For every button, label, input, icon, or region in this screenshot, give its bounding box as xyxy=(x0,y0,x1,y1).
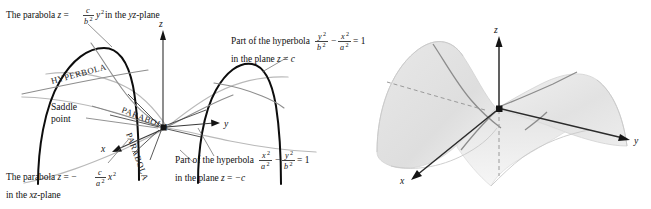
caption-br-t2-den-sup: 2 xyxy=(290,161,293,167)
caption-tr-t2-den-sup: 2 xyxy=(346,42,349,48)
caption-tr-t1-num: y xyxy=(317,32,322,41)
surface-x-axis-label: x xyxy=(399,175,405,186)
caption-tl-plane: yz xyxy=(127,10,136,20)
caption-top-right: Part of the hyperbola y 2 b 2 − x 2 a 2 … xyxy=(231,31,365,65)
caption-tl-frac-num: c xyxy=(86,6,90,15)
caption-br-minus: − xyxy=(275,155,280,165)
caption-tl-plane-tail: -plane xyxy=(136,10,159,20)
caption-tl-suffix: in the xyxy=(105,10,128,20)
surface-z-axis-label: z xyxy=(493,24,498,35)
caption-tr-line2a: in the plane xyxy=(231,54,277,64)
caption-bottom-right: Part of the hyperbola x 2 a 2 − y 2 b 2 … xyxy=(175,150,310,184)
caption-tl-y-sup: 2 xyxy=(101,9,104,15)
surface-z-arrowhead xyxy=(496,36,503,47)
surface-origin-marker xyxy=(496,106,503,113)
caption-tl-frac-den-sup: 2 xyxy=(90,16,93,22)
left-labeled-diagram: z y x HYPERBOLA PARABOLA PARABOLA Saddle… xyxy=(0,0,365,209)
caption-tr-t1-den: b xyxy=(317,43,321,52)
caption-bottom-left: The parabola z = − c a 2 x 2 in the xz-p… xyxy=(6,168,116,200)
caption-br-line2a: in the plane xyxy=(175,173,221,183)
caption-tr-equals: = 1 xyxy=(353,36,365,46)
caption-tr-t1-num-sup: 2 xyxy=(323,31,326,37)
caption-bl-line2a: in the xyxy=(6,190,29,200)
right-shaded-surface: z y x xyxy=(365,0,651,209)
svg-text:in the plane z = −c: in the plane z = −c xyxy=(175,173,246,183)
y-axis-arrowhead xyxy=(211,120,220,127)
caption-br-t1-den: a xyxy=(261,162,265,171)
caption-br-t1-num: x xyxy=(261,151,266,160)
caption-tr-t1-den-sup: 2 xyxy=(323,42,326,48)
gray-trace-lower-right xyxy=(167,128,316,152)
caption-bl-line2-plane: xz xyxy=(28,190,37,200)
caption-br-t1-den-sup: 2 xyxy=(267,161,270,167)
caption-tr-t2-den: a xyxy=(340,43,344,52)
surface-y-axis-label: y xyxy=(633,135,639,146)
caption-bl-frac-den-sup: 2 xyxy=(102,178,105,184)
y-axis-label: y xyxy=(223,118,229,129)
x-axis-label: x xyxy=(100,143,106,154)
caption-bl-equals: = xyxy=(61,172,71,182)
caption-tr-t2-num: x xyxy=(340,32,345,41)
caption-br-prefix: Part of the hyperbola xyxy=(175,155,255,165)
svg-text:in the xz-plane: in the xz-plane xyxy=(6,190,61,200)
saddle-point-label-line1: Saddle xyxy=(51,101,77,112)
caption-br-t1-num-sup: 2 xyxy=(267,150,270,156)
caption-tr-line2b: = xyxy=(281,54,291,64)
caption-bl-minus: − xyxy=(71,172,76,182)
caption-bl-prefix: The parabola xyxy=(6,172,58,182)
caption-tl-prefix: The parabola xyxy=(6,10,58,20)
svg-text:The parabola z =: The parabola z = xyxy=(6,10,69,20)
caption-bl-frac-num: c xyxy=(98,168,102,177)
svg-text:The parabola z = −: The parabola z = − xyxy=(6,172,76,182)
caption-top-left: The parabola z = c b 2 y 2 in the yz-pla… xyxy=(6,6,160,26)
caption-bl-frac-den: a xyxy=(96,179,100,188)
caption-bl-line2b: -plane xyxy=(37,190,60,200)
caption-br-t2-den: b xyxy=(284,162,288,171)
caption-br-line2b: = xyxy=(225,173,235,183)
z-axis-arrowhead xyxy=(160,30,166,40)
caption-br-equals: = 1 xyxy=(297,155,310,165)
saddle-point-label-line2: point xyxy=(51,113,71,124)
caption-br-t2-num: y xyxy=(284,151,289,160)
caption-bl-x-sup: 2 xyxy=(113,171,116,177)
caption-tl-equals: = xyxy=(61,10,69,20)
caption-tr-t2-num-sup: 2 xyxy=(346,31,349,37)
caption-br-line2-c: −c xyxy=(235,173,246,183)
figure-root: z y x HYPERBOLA PARABOLA PARABOLA Saddle… xyxy=(0,0,651,209)
caption-br-t2-num-sup: 2 xyxy=(290,150,293,156)
svg-text:in the yz-plane: in the yz-plane xyxy=(105,10,160,20)
caption-tr-line2-c: c xyxy=(291,54,296,64)
caption-tr-prefix: Part of the hyperbola xyxy=(231,36,311,46)
caption-tl-frac-den: b xyxy=(84,17,88,26)
svg-text:in the plane z = c: in the plane z = c xyxy=(231,54,296,64)
caption-tr-minus: − xyxy=(331,36,336,46)
leader-bottom-left-caption xyxy=(108,140,128,163)
